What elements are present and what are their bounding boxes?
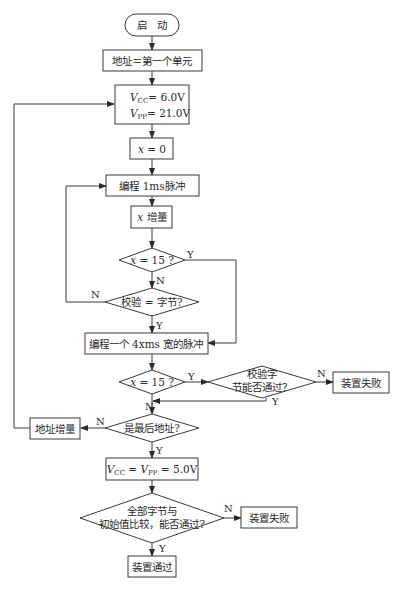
svg-text:x = 15 ?: x = 15 ? bbox=[130, 376, 174, 388]
node-x-zero: x = 0 bbox=[130, 138, 173, 159]
vpp-sub: PP bbox=[148, 469, 158, 477]
eq: = bbox=[125, 463, 140, 475]
addr-inc-label: 地址增量 bbox=[35, 423, 76, 435]
prog-4xms-label: 编程一个 4xms 宽的脉冲 bbox=[89, 338, 204, 350]
node-prog-4xms: 编程一个 4xms 宽的脉冲 bbox=[85, 333, 208, 354]
decision-last-address: 是最后地址? bbox=[105, 414, 199, 442]
edge-label-no: N bbox=[91, 289, 100, 300]
vpp-value: = 21.0V bbox=[147, 107, 191, 119]
edge-label-yes: Y bbox=[271, 396, 279, 407]
decision-compare-all: 全部字节与 初始值比较，能否通过? bbox=[80, 493, 224, 543]
fail-1-label: 装置失败 bbox=[341, 377, 382, 389]
start-terminal: 启 动 bbox=[125, 14, 179, 36]
edge-verify-no bbox=[66, 186, 106, 302]
node-pass: 装置通过 bbox=[128, 556, 176, 577]
node-addr-first: 地址＝第一个单元 bbox=[103, 50, 202, 71]
node-fail-2: 装置失败 bbox=[241, 507, 297, 528]
vcc-value: = 6.0V bbox=[148, 91, 185, 103]
value: = 5.0V bbox=[158, 463, 198, 475]
svg-text:x = 0: x = 0 bbox=[138, 143, 166, 155]
edge-label-yes: Y bbox=[155, 445, 163, 456]
edge-addr-inc-loop bbox=[14, 104, 114, 428]
fail-2-label: 装置失败 bbox=[249, 512, 290, 524]
verify-pass-line1: 校验字 bbox=[247, 368, 277, 380]
vcc-sub: CC bbox=[138, 97, 149, 105]
pass-label: 装置通过 bbox=[132, 561, 173, 573]
node-fail-1: 装置失败 bbox=[333, 372, 389, 393]
edge-label-yes: Y bbox=[155, 320, 163, 331]
vcc-sub: CC bbox=[114, 469, 125, 477]
decision-verify-byte: 校验 = 字节? bbox=[105, 288, 199, 316]
svg-text:x 增量: x 增量 bbox=[137, 211, 167, 223]
flowchart: 启 动 地址＝第一个单元 VCC= 6.0V VPP= 21.0V x = 0 … bbox=[0, 0, 411, 591]
svg-text:x = 15 ?: x = 15 ? bbox=[130, 254, 174, 266]
verify-pass-line2: 节能否通过？ bbox=[232, 381, 292, 393]
prog-1ms-label: 编程 1ms脉冲 bbox=[119, 180, 184, 192]
decision-x-eq-15-second: x = 15 ? bbox=[119, 370, 185, 394]
edge-label-no: N bbox=[96, 416, 105, 427]
vpp-sub: PP bbox=[138, 113, 148, 121]
x15a-rest: = 15 ? bbox=[136, 254, 174, 266]
node-vcc-vpp-5v: VCC = VPP = 5.0V bbox=[106, 458, 198, 480]
node-vcc-vpp-set: VCC= 6.0V VPP= 21.0V bbox=[115, 85, 191, 124]
edge-label-no: N bbox=[145, 401, 154, 412]
addr-first-label: 地址＝第一个单元 bbox=[112, 55, 193, 67]
edge-label-no: N bbox=[224, 503, 233, 514]
start-label: 启 动 bbox=[137, 19, 167, 31]
edge-label-yes: Y bbox=[158, 543, 166, 554]
edge-label-yes: Y bbox=[186, 249, 194, 260]
node-prog-1ms: 编程 1ms脉冲 bbox=[106, 175, 199, 196]
decision-x-eq-15-first: x = 15 ? bbox=[119, 248, 185, 272]
node-addr-inc: 地址增量 bbox=[30, 418, 80, 439]
x-zero-rest: = 0 bbox=[144, 143, 166, 155]
last-addr-label: 是最后地址? bbox=[124, 422, 180, 434]
edge-label-no: N bbox=[317, 368, 326, 379]
edge-label-no: N bbox=[156, 275, 165, 286]
verify-byte-label: 校验 = 字节? bbox=[121, 296, 182, 308]
compare-line2: 初始值比较，能否通过? bbox=[99, 518, 205, 530]
x15b-rest: = 15 ? bbox=[136, 376, 174, 388]
edge-label-yes: Y bbox=[187, 371, 195, 382]
edge-verify-pass-yes bbox=[153, 398, 266, 401]
x-inc-rest: 增量 bbox=[143, 211, 167, 223]
decision-verify-pass: 校验字 节能否通过？ bbox=[208, 366, 316, 398]
node-x-inc: x 增量 bbox=[131, 206, 172, 228]
compare-line1: 全部字节与 bbox=[127, 505, 177, 517]
